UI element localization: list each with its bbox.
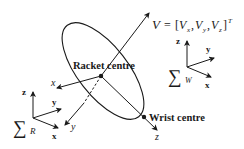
wrist-centre-dot bbox=[142, 115, 146, 119]
racket-base-frame: z y x ∑ R bbox=[13, 87, 61, 141]
racket-x-label: x bbox=[50, 77, 56, 88]
svg-text:V: V bbox=[152, 17, 162, 32]
racket-centre-dot bbox=[99, 74, 103, 78]
base-x-label: x bbox=[52, 131, 57, 141]
world-frame: z y x ∑ W bbox=[168, 36, 214, 90]
svg-text:T: T bbox=[228, 17, 233, 25]
racket-y-label: y bbox=[70, 121, 76, 132]
racket-z-label: z bbox=[154, 131, 159, 142]
racket-ellipse bbox=[48, 10, 159, 132]
racket-x-axis-arrow bbox=[57, 76, 101, 88]
base-z-label: z bbox=[22, 87, 26, 97]
racket-centre-label: Racket centre bbox=[73, 60, 135, 71]
racket-frame-diagram: Racket centre Wrist centre x y z V = [ V… bbox=[0, 0, 244, 149]
velocity-equation: V = [ V x , V y , V z ] T bbox=[152, 17, 233, 34]
wrist-centre-label: Wrist centre bbox=[149, 112, 205, 123]
base-y-label: y bbox=[52, 97, 57, 107]
svg-text:=: = bbox=[164, 18, 171, 32]
base-sigma: ∑ bbox=[13, 117, 27, 139]
svg-text:,: , bbox=[207, 18, 210, 32]
world-x-label: x bbox=[205, 80, 210, 90]
base-subscript: R bbox=[29, 126, 36, 136]
world-z-label: z bbox=[176, 36, 180, 46]
world-sigma: ∑ bbox=[168, 66, 182, 88]
world-y-label: y bbox=[206, 44, 211, 54]
svg-text:,: , bbox=[191, 18, 194, 32]
svg-text:]: ] bbox=[223, 18, 227, 32]
svg-text:z: z bbox=[218, 26, 222, 34]
world-subscript: W bbox=[185, 76, 193, 85]
